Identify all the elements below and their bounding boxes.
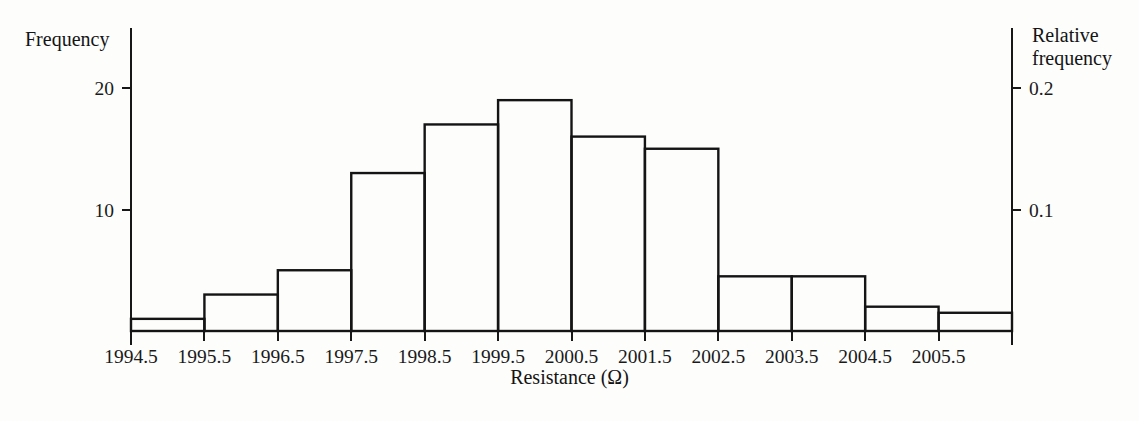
histogram-bar — [351, 173, 424, 331]
x-tick-label: 1998.5 — [398, 346, 452, 367]
histogram-bar — [572, 137, 645, 331]
histogram-bar — [792, 276, 865, 331]
histogram-bar — [645, 149, 718, 331]
x-tick-label: 2004.5 — [838, 346, 892, 367]
histogram-bar — [865, 307, 938, 331]
x-tick-label: 1997.5 — [324, 346, 378, 367]
histogram-bars — [131, 100, 1012, 331]
x-tick-label: 2001.5 — [618, 346, 672, 367]
y-axis-ticks: 2010 — [95, 78, 132, 221]
histogram-bar — [131, 319, 204, 331]
histogram-bar — [498, 100, 571, 331]
histogram-figure: Frequency Relative frequency Resistance … — [0, 0, 1139, 421]
histogram-bar — [718, 276, 791, 331]
histogram-bar — [939, 313, 1012, 331]
x-tick-label: 2003.5 — [765, 346, 819, 367]
x-tick-label: 2005.5 — [912, 346, 966, 367]
histogram-bar — [278, 270, 351, 331]
x-axis-ticks: 1994.51995.51996.51997.51998.51999.52000… — [104, 331, 1012, 367]
x-tick-label: 1995.5 — [178, 346, 232, 367]
histogram-bar — [204, 295, 277, 331]
x-tick-label: 1999.5 — [471, 346, 525, 367]
x-tick-label: 2002.5 — [692, 346, 746, 367]
x-tick-label: 2000.5 — [545, 346, 599, 367]
y2-axis-ticks: 0.20.1 — [1012, 78, 1053, 221]
x-tick-label: 1996.5 — [251, 346, 305, 367]
histogram-bar — [425, 124, 498, 331]
y2-tick-label: 0.1 — [1029, 200, 1053, 221]
histogram-plot: 2010 0.20.1 1994.51995.51996.51997.51998… — [0, 0, 1139, 421]
y-tick-label: 10 — [95, 200, 115, 221]
y2-tick-label: 0.2 — [1029, 78, 1053, 99]
x-tick-label: 1994.5 — [104, 346, 158, 367]
y-tick-label: 20 — [95, 78, 115, 99]
